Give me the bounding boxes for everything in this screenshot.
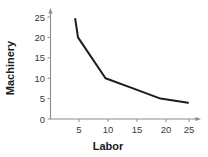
y-tick-label-0: 0	[40, 114, 45, 125]
x-axis-arrow-icon	[196, 117, 202, 121]
y-axis-arrow-icon	[48, 8, 52, 14]
y-tick-label-15: 15	[34, 52, 45, 63]
x-tick-label-5: 5	[76, 124, 81, 135]
y-tick-label-5: 5	[40, 93, 45, 104]
isoquant-chart: 0 5 10 15 20 25 5 10 15 20 25 Labor Mach…	[0, 0, 208, 157]
x-tick-label-10: 10	[103, 124, 114, 135]
y-tick-label-10: 10	[34, 73, 45, 84]
machinery-labor-curve	[75, 19, 188, 103]
x-tick-label-20: 20	[161, 124, 172, 135]
y-tick-label-20: 20	[34, 32, 45, 43]
y-axis-title: Machinery	[4, 40, 16, 95]
x-axis-title: Labor	[93, 140, 124, 152]
y-tick-label-25: 25	[34, 12, 45, 23]
x-tick-label-25: 25	[184, 124, 195, 135]
chart-container: 0 5 10 15 20 25 5 10 15 20 25 Labor Mach…	[0, 0, 208, 157]
x-tick-label-15: 15	[132, 124, 143, 135]
